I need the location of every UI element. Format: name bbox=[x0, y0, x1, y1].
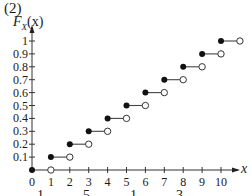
filled-point-icon bbox=[218, 38, 224, 44]
y-tick-label: 0.9 bbox=[13, 48, 28, 60]
filled-point-icon bbox=[29, 167, 35, 173]
y-tick-label: 0.1 bbox=[13, 151, 28, 163]
open-point-icon bbox=[199, 64, 205, 70]
cropped-text-fragment: 1 bbox=[37, 189, 44, 196]
open-point-icon bbox=[104, 128, 110, 134]
y-tick-label: 1 bbox=[22, 35, 28, 47]
filled-point-icon bbox=[124, 103, 130, 109]
cropped-text-fragment: 3 bbox=[176, 189, 183, 196]
filled-point-icon bbox=[86, 128, 92, 134]
y-tick-label: 0.5 bbox=[13, 100, 28, 112]
cropped-text-fragment: 5 bbox=[83, 189, 90, 196]
y-tick-label: 0.3 bbox=[13, 125, 28, 137]
y-tick-label: 0.8 bbox=[13, 61, 28, 73]
x-tick-label: 10 bbox=[209, 176, 233, 188]
y-tick-label: 0.4 bbox=[13, 112, 28, 124]
filled-point-icon bbox=[105, 115, 111, 121]
filled-point-icon bbox=[67, 141, 73, 147]
y-axis-arrow-icon bbox=[30, 25, 35, 33]
step-chart bbox=[0, 0, 252, 196]
filled-point-icon bbox=[48, 154, 54, 160]
y-tick-label: 0.2 bbox=[13, 138, 28, 150]
open-point-icon bbox=[180, 77, 186, 83]
cropped-text-fragment: 1 bbox=[130, 189, 137, 196]
open-point-icon bbox=[86, 141, 92, 147]
filled-point-icon bbox=[180, 64, 186, 70]
x-axis-arrow-icon bbox=[232, 168, 240, 173]
open-point-icon bbox=[142, 102, 148, 108]
open-point-icon bbox=[67, 154, 73, 160]
y-tick-label: 0.7 bbox=[13, 74, 28, 86]
open-point-icon bbox=[161, 89, 167, 95]
open-point-icon bbox=[218, 51, 224, 57]
filled-point-icon bbox=[199, 51, 205, 57]
open-point-icon bbox=[48, 167, 54, 173]
filled-point-icon bbox=[142, 90, 148, 96]
filled-point-icon bbox=[161, 77, 167, 83]
open-point-icon bbox=[123, 115, 129, 121]
y-tick-label: 0.6 bbox=[13, 87, 28, 99]
open-point-icon bbox=[237, 38, 243, 44]
